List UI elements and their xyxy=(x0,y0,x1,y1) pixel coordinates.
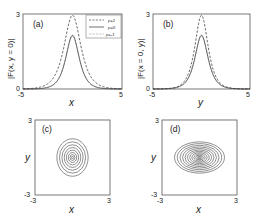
panel-a-label: (a) xyxy=(33,19,44,29)
legend-label-pm1: p=-1 xyxy=(105,32,115,37)
panel-b-label: (b) xyxy=(163,19,174,29)
panel-c-xtick-right: 3 xyxy=(107,197,111,204)
legend-label-p1: p=1 xyxy=(107,18,115,23)
panel-b-ylabel: |F(x = 0, y)| xyxy=(136,39,145,79)
panel-a-ytick-top: 3 xyxy=(16,11,20,18)
panel-b-xlabel: y xyxy=(197,97,204,108)
panel-c-xtick-left: -3 xyxy=(30,197,36,204)
panel-c-ylabel: y xyxy=(24,152,31,163)
panel-d-label: (d) xyxy=(170,124,181,134)
panel-d-xtick-right: 3 xyxy=(234,197,238,204)
panel-d-xlabel: x xyxy=(195,204,202,215)
panel-b-xtick-left: -5 xyxy=(149,91,155,98)
panel-b-ytick-top: 3 xyxy=(146,11,150,18)
panel-b-xtick-right: 5 xyxy=(246,91,250,98)
legend-label-p0: p=0 xyxy=(107,25,116,30)
panel-d-ylabel: y xyxy=(150,152,157,163)
panel-a-ylabel: |F(x, y = 0)| xyxy=(6,39,15,79)
panel-a-xtick-right: 5 xyxy=(119,91,123,98)
panel-a-legend: p=1 p=0 p=-1 xyxy=(86,15,121,38)
legend-box xyxy=(86,15,121,38)
panel-c-label: (c) xyxy=(42,124,52,134)
panel-c-xlabel: x xyxy=(68,204,75,215)
panel-a-xtick-left: -5 xyxy=(18,91,24,98)
figure: (a) 3 0 -5 5 x |F(x, y = 0)| p=1 p=0 p=-… xyxy=(0,0,255,219)
panel-a-xlabel: x xyxy=(68,97,75,108)
panel-d-xtick-left: -3 xyxy=(157,197,163,204)
panel-c-ytick-top: 3 xyxy=(28,117,32,124)
panel-d-ytick-top: 3 xyxy=(155,117,159,124)
figure-background xyxy=(0,0,255,219)
